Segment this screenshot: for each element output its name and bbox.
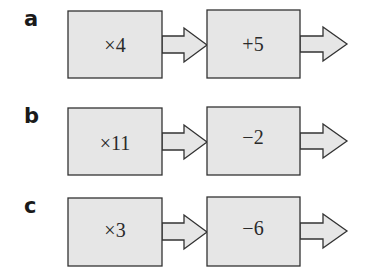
operation-label: ×3 [104, 219, 125, 241]
arrow-icon [162, 125, 207, 159]
operation-label: ×11 [100, 132, 131, 154]
machine-row-a: ×4 +5 [68, 10, 347, 78]
operation-label: ×4 [104, 34, 125, 56]
arrow-icon [300, 214, 347, 248]
machine-row-c: ×3 −6 [68, 197, 347, 266]
arrow-icon [162, 215, 207, 249]
arrow-icon [162, 28, 207, 62]
function-machine-diagram: ×4 +5 ×11 −2 ×3 −6 [0, 0, 371, 280]
arrow-icon [300, 124, 347, 158]
arrow-icon [300, 27, 347, 61]
machine-row-b: ×11 −2 [68, 107, 347, 175]
operation-label: −2 [242, 126, 263, 148]
operation-label: +5 [242, 33, 263, 55]
operation-label: −6 [242, 217, 263, 239]
